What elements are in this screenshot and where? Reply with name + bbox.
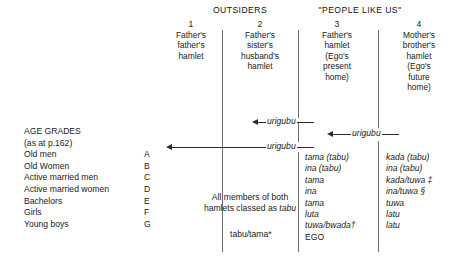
divider-col3-col4-upper [378, 30, 379, 129]
column-2-term: tabu/tama* [230, 229, 272, 240]
column-1-line-1: Father's [162, 30, 220, 40]
column-2-line-3: husband's [229, 51, 291, 61]
column-4-number: 4 [386, 19, 452, 30]
column-3-line-2: hamlet [306, 40, 368, 50]
age-grades-title-line-2: (as at p.162) [24, 138, 164, 150]
column-4-line-3: hamlet [386, 51, 452, 61]
age-grade-label: Old men [24, 149, 56, 161]
term-item: ina [305, 186, 375, 197]
age-grade-row: Girls F [24, 207, 164, 219]
column-2-line-2: sister's [229, 40, 291, 50]
age-grade-letter: A [144, 149, 150, 161]
urigubu-arrow-3: urigubu [166, 142, 314, 153]
urigubu-arrow-1: urigubu [252, 117, 314, 128]
tabu-note-line-2-prefix: hamlets classed as [204, 203, 279, 213]
term-item: kada (tabu) [386, 152, 466, 163]
column-1-heading: 1 Father's father's hamlet [162, 19, 220, 61]
column-3-line-5: home) [306, 72, 368, 82]
age-grade-row: Bachelors E [24, 196, 164, 208]
column-3-line-3: (Ego's [306, 51, 368, 61]
column-3-line-1: Father's [306, 30, 368, 40]
age-grade-row: Old Women B [24, 161, 164, 173]
age-grade-letter: E [144, 196, 150, 208]
term-item-ego: EGO [305, 232, 375, 243]
age-grade-row: Active married men C [24, 172, 164, 184]
column-4-line-4: (Ego's [386, 61, 452, 71]
age-grade-label: Active married men [24, 172, 98, 184]
age-grades-panel: AGE GRADES (as at p.162) Old men A Old W… [24, 126, 164, 230]
column-4-line-5: future [386, 72, 452, 82]
column-4-term-list: kada (tabu) ina (tabu) kada/tuwa ‡ ina/t… [386, 152, 466, 232]
term-item: tuwa/bwada† [305, 220, 375, 231]
age-grade-label: Bachelors [24, 196, 62, 208]
column-4-line-1: Mother's [386, 30, 452, 40]
tabu-note-line-2: hamlets classed as tabu [180, 203, 320, 214]
column-4-line-6: home) [386, 82, 452, 92]
urigubu-arrow-2: urigubu [327, 129, 399, 140]
age-grade-letter: F [144, 207, 149, 219]
urigubu-label-3: urigubu [266, 141, 297, 151]
age-grade-row: Young boys G [24, 219, 164, 231]
divider-col3-col4-lower [378, 141, 379, 252]
column-2-heading: 2 Father's sister's husband's hamlet [229, 19, 291, 72]
term-item: ina/tuwa § [386, 186, 466, 197]
term-item: kada/tuwa ‡ [386, 175, 466, 186]
urigubu-label-2: urigubu [351, 128, 382, 138]
term-item: tama (tabu) [305, 152, 375, 163]
age-grade-row: Old men A [24, 149, 164, 161]
tabu-note-line-2-italic: tabu [279, 203, 296, 213]
column-3-term-list: tama (tabu) ina (tabu) tama ina tama lut… [305, 152, 375, 243]
age-grade-letter: G [144, 219, 151, 231]
column-3-line-4: present [306, 61, 368, 71]
divider-col1-col2 [222, 30, 223, 252]
column-1-line-3: hamlet [162, 51, 220, 61]
term-item: ina (tabu) [386, 163, 466, 174]
age-grade-letter: C [144, 172, 150, 184]
age-grade-row: Active married women D [24, 184, 164, 196]
age-grade-label: Active married women [24, 184, 109, 196]
term-item: ina (tabu) [305, 163, 375, 174]
age-grade-label: Old Women [24, 161, 69, 173]
age-grade-letter: D [144, 184, 150, 196]
diagram-canvas: OUTSIDERS "PEOPLE LIKE US" 1 Father's fa… [0, 0, 472, 260]
divider-col2-col3-upper [298, 30, 299, 118]
column-3-heading: 3 Father's hamlet (Ego's present home) [306, 19, 368, 82]
column-2-line-1: Father's [229, 30, 291, 40]
column-3-number: 3 [306, 19, 368, 30]
term-item: tuwa [386, 198, 466, 209]
age-grade-label: Young boys [24, 219, 69, 231]
term-item: tama [305, 175, 375, 186]
age-grades-title-line-1: AGE GRADES [24, 126, 164, 138]
group-header-people-like-us: "PEOPLE LIKE US" [280, 5, 440, 15]
age-grade-letter: B [144, 161, 150, 173]
age-grade-label: Girls [24, 207, 42, 219]
column-4-heading: 4 Mother's brother's hamlet (Ego's futur… [386, 19, 452, 92]
column-2-line-4: hamlet [229, 61, 291, 71]
term-item: tama [305, 198, 375, 209]
column-1-line-2: father's [162, 40, 220, 50]
term-item: latu [386, 209, 466, 220]
urigubu-label-1: urigubu [266, 116, 297, 126]
term-item: latu [386, 220, 466, 231]
column-2-number: 2 [229, 19, 291, 30]
column-4-line-2: brother's [386, 40, 452, 50]
column-1-number: 1 [162, 19, 220, 30]
tabu-note-line-1: All members of both [180, 192, 320, 203]
term-item: luta [305, 209, 375, 220]
tabu-classification-note: All members of both hamlets classed as t… [180, 192, 320, 215]
